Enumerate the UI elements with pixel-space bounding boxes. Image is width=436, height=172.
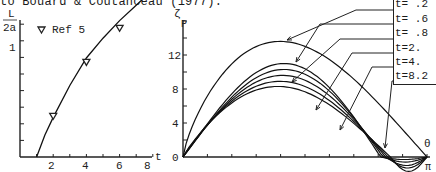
triangle-marker-icon — [83, 59, 90, 65]
legend-marker-triangle-icon — [38, 27, 45, 33]
right-xlabel-pi: π — [425, 162, 431, 172]
right-xlabel-theta: θ — [424, 138, 431, 150]
right-chart: ζ P 12 8 4 0 θ π — [168, 8, 431, 172]
right-ylabel-sub: P — [181, 19, 187, 30]
legend-item-t08: t= .8 — [395, 27, 428, 39]
left-xtick-label-8: 8 — [144, 160, 151, 172]
triangle-marker-icon — [50, 113, 57, 119]
left-ref5-markers — [50, 0, 157, 119]
leader-line — [287, 10, 393, 40]
legend-item-t82: t=8.2 — [395, 70, 428, 82]
left-chart: L 2a 1 2 4 6 8 t Ref 5 — [3, 0, 162, 172]
left-xtick-label-4: 4 — [82, 160, 89, 172]
leader-line — [385, 81, 393, 148]
right-ytick-label-8: 8 — [172, 84, 179, 96]
legend-item-t2: t=2. — [395, 42, 421, 54]
legend-label-ref5: Ref 5 — [52, 24, 85, 36]
left-ylabel-num: L — [8, 8, 15, 20]
legend-item-t02: t= .2 — [395, 0, 428, 10]
left-xtick-label-6: 6 — [116, 160, 123, 172]
left-ytick-label-1: 1 — [9, 42, 16, 54]
legend-item-t4: t=4. — [395, 56, 421, 68]
right-ytick-label-12: 12 — [168, 50, 181, 62]
leader-line — [340, 67, 393, 130]
left-xtick-label-2: 2 — [48, 160, 55, 172]
right-ylabel-main: ζ — [174, 8, 181, 20]
right-ytick-label-4: 4 — [172, 118, 179, 130]
left-xlabel: t — [155, 151, 162, 163]
right-curves — [183, 41, 427, 171]
left-ylabel-den: 2a — [3, 22, 17, 34]
right-ytick-label-0: 0 — [172, 152, 179, 164]
triangle-marker-icon — [116, 25, 123, 31]
curve-t2 — [183, 75, 427, 165]
legend-item-t06: t= .6 — [395, 13, 428, 25]
